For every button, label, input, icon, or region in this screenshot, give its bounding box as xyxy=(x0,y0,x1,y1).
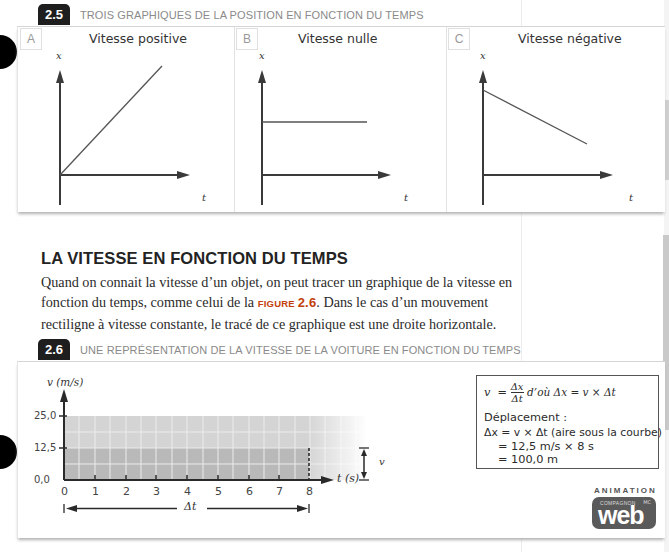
formula-box: v = ΔxΔt d’où Δx = v × Δt Déplacement : … xyxy=(476,375,659,469)
figure-number: 2.6 xyxy=(38,339,70,360)
figure-25-box: A Vitesse positive x t B Vitesse nulle x… xyxy=(17,26,665,212)
x-tick: 2 xyxy=(123,485,130,498)
formula-line-1: v = ΔxΔt d’où Δx = v × Δt xyxy=(484,381,616,404)
x-tick: 6 xyxy=(246,485,253,498)
v-marker-label: v xyxy=(379,456,385,467)
brand-word: web xyxy=(598,502,644,529)
x-tick: 1 xyxy=(92,485,99,498)
formula-line-4: = 12,5 m/s × 8 s xyxy=(498,440,594,453)
x-tick: 4 xyxy=(184,485,191,498)
velocity-time-chart xyxy=(17,361,477,537)
binder-hole xyxy=(0,435,17,469)
section-heading: LA VITESSE EN FONCTION DU TEMPS xyxy=(41,249,348,268)
y-tick-25: 25,0 xyxy=(34,410,56,421)
formula-line-2: Déplacement : xyxy=(484,411,567,424)
compagnon-web-button[interactable]: COMPAGNON web MC xyxy=(592,497,656,529)
position-graph-zero xyxy=(234,27,446,212)
panel-b: B Vitesse nulle x t xyxy=(234,27,447,212)
x-axis-title: t (s) xyxy=(337,472,359,485)
y-axis-title: v (m/s) xyxy=(47,376,83,388)
formula-line-5: = 100,0 m xyxy=(498,453,558,466)
figure-26-header: 2.6 UNE REPRÉSENTATION DE LA VITESSE DE … xyxy=(38,340,521,360)
y-tick-12-5: 12,5 xyxy=(34,442,56,453)
figure-title: TROIS GRAPHIQUES DE LA POSITION EN FONCT… xyxy=(80,9,424,25)
panel-c: C Vitesse négative x t xyxy=(446,27,665,212)
position-graph-negative xyxy=(446,27,665,212)
figure-title: UNE REPRÉSENTATION DE LA VITESSE DE LA V… xyxy=(80,344,521,360)
figure-25-header: 2.5 TROIS GRAPHIQUES DE LA POSITION EN F… xyxy=(38,5,424,25)
figure-number: 2.5 xyxy=(38,4,70,25)
delta-t-label: Δt xyxy=(184,500,196,513)
panel-a: A Vitesse positive x t xyxy=(18,27,235,212)
position-graph-positive xyxy=(18,27,234,212)
animation-label: ANIMATION xyxy=(594,486,657,495)
x-tick: 7 xyxy=(276,485,283,498)
x-tick: 5 xyxy=(215,485,222,498)
y-tick-0: 0,0 xyxy=(34,474,50,485)
x-tick: 8 xyxy=(306,485,313,498)
x-tick: 3 xyxy=(153,485,160,498)
binder-hole xyxy=(0,35,17,69)
formula-line-3: Δx = v × Δt (aire sous la courbe) xyxy=(484,426,662,439)
trademark: MC xyxy=(643,499,651,505)
section-paragraph: Quand on connait la vitesse d’un objet, … xyxy=(41,272,519,334)
x-tick: 0 xyxy=(61,485,68,498)
figure-reference-link[interactable]: FIGURE 2.6 xyxy=(258,298,317,309)
